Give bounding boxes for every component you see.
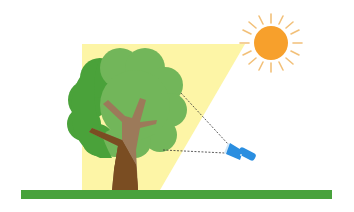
ground <box>21 190 332 199</box>
flashlight-icon <box>224 143 257 162</box>
tree-light-diagram <box>0 0 354 212</box>
sun-icon <box>254 26 288 60</box>
